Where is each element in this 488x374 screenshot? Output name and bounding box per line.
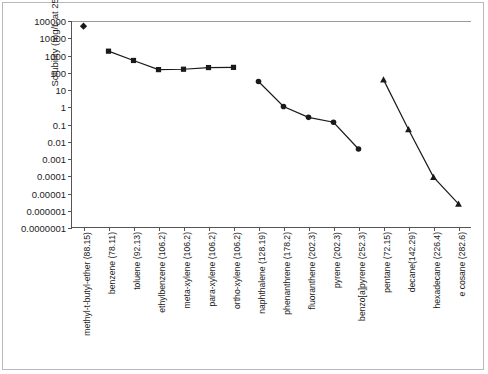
x-tick-label: hexadecane (226.4) (437, 232, 447, 308)
series-line (109, 51, 234, 69)
data-point-marker (281, 104, 287, 110)
series-line (384, 80, 459, 204)
data-point-marker (380, 76, 387, 82)
y-tick-mark (68, 228, 72, 229)
x-tick-label: fluoranthene (202.3) (312, 232, 322, 309)
chart-figure: Solubility (mg/L at 25°C) 10000010000100… (0, 0, 488, 374)
y-tick-label: 0.0000001 (21, 223, 71, 234)
data-point-marker (106, 49, 111, 54)
data-point-marker (331, 119, 337, 125)
data-point-marker (231, 65, 236, 70)
data-point-marker (206, 65, 211, 70)
data-point-marker (156, 67, 161, 72)
x-tick-label: meta-xylene (106.2) (187, 232, 197, 308)
y-tick-label: 0.000001 (26, 205, 71, 216)
x-tick-label: decane(142.29) (412, 232, 422, 292)
x-tick-label: toluene (92.13) (137, 232, 147, 290)
data-point-marker (306, 115, 312, 121)
x-tick-label: pyrene (202.3) (337, 232, 347, 288)
x-tick-label: phenanthrene (178.2) (287, 232, 297, 315)
y-tick-label: 0.0001 (37, 171, 71, 182)
plot-area: 1000001000010001001010.10.010.0010.00010… (71, 21, 471, 228)
x-tick-label: naphthalene (128.19) (262, 232, 272, 314)
data-point-marker (131, 58, 136, 63)
data-point-marker (80, 23, 87, 30)
data-point-marker (256, 79, 262, 85)
data-point-marker (181, 67, 186, 72)
x-tick-label: benzo[a]pyrene (252.3) (362, 232, 372, 321)
y-tick-label: 10000 (40, 33, 71, 44)
x-tick-label: ethylbenzene (106.2) (162, 232, 172, 313)
data-point-marker (405, 126, 412, 132)
x-tick-label: e cosane (282.6) (462, 232, 472, 297)
y-tick-label: 0.00001 (32, 188, 71, 199)
y-tick-label: 0.001 (42, 154, 71, 165)
x-tick-label: methyl-t-butyl-ether (88.15) (87, 232, 97, 336)
x-tick-label: pentane (72.15) (387, 232, 397, 293)
x-tick-label: benzene (78.11) (112, 232, 122, 294)
data-point-marker (356, 146, 362, 152)
x-tick-label: ortho-xylene (106.2) (237, 232, 247, 309)
series-layer (71, 21, 471, 228)
x-tick-label: para-xylene (106.2) (212, 232, 222, 307)
y-tick-label: 100000 (34, 16, 71, 27)
data-point-marker (430, 174, 437, 180)
